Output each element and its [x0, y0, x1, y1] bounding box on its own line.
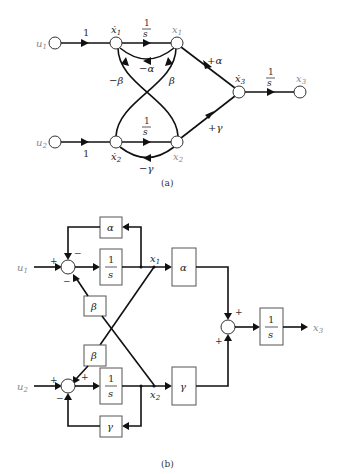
node-u1: [49, 37, 61, 49]
node-x2: [171, 136, 183, 148]
svg-text:s: s: [143, 29, 148, 39]
label-x2: x2: [173, 151, 184, 164]
gain-integrator-2: 1 s: [142, 116, 151, 137]
signal-flow-graph-a: u1 u2 ẋ1 x1 ẋ2 x2 ẋ3 x3 1 1 1 s 1 s 1 s …: [36, 18, 307, 188]
summing-junction-1: [61, 260, 75, 274]
arrow-icon: [73, 274, 80, 282]
arrow-icon: [93, 382, 100, 390]
block-diagram-canvas: u1 u2 ẋ1 x1 ẋ2 x2 ẋ3 x3 1 1 1 s 1 s 1 s …: [0, 0, 338, 474]
summing-junction-2: [61, 379, 75, 393]
gain-integrator-1: 1 s: [142, 18, 151, 39]
svg-text:−: −: [63, 276, 71, 286]
svg-text:s: s: [108, 388, 113, 399]
gain-u1: 1: [83, 27, 89, 38]
arrow-icon: [81, 138, 89, 146]
arrow-icon: [143, 154, 151, 162]
label-b-u2: u2: [17, 381, 28, 394]
label-b-x3: x3: [313, 322, 324, 335]
label-u2: u2: [36, 137, 47, 150]
arrow-icon: [267, 88, 275, 96]
gain-u2: 1: [83, 148, 89, 159]
arrow-icon: [165, 263, 172, 271]
svg-text:α: α: [180, 262, 187, 273]
label-b-u1: u1: [17, 262, 28, 275]
label-b-x2: x2: [150, 389, 161, 402]
gain-minus-beta: −β: [109, 75, 123, 86]
label-x1: x1: [172, 24, 182, 37]
svg-text:+: +: [215, 336, 223, 346]
gain-beta: β: [168, 75, 175, 86]
label-b-x1: x1: [150, 253, 160, 266]
wire-alpha-fb-in: [127, 227, 141, 267]
arrow-icon: [64, 393, 72, 400]
svg-text:+: +: [81, 372, 89, 382]
caption-a: (a): [161, 178, 173, 188]
svg-text:α: α: [107, 222, 114, 233]
label-x2dot: ẋ2: [111, 151, 122, 164]
label-u1: u1: [36, 38, 47, 51]
svg-text:1: 1: [108, 373, 114, 384]
node-x2dot: [110, 136, 122, 148]
svg-text:s: s: [267, 78, 272, 88]
wire-gamma-to-sum3: [196, 338, 228, 386]
node-x1: [171, 37, 183, 49]
branch-feedback-alpha: [120, 48, 174, 59]
svg-text:s: s: [108, 269, 113, 280]
wire-alpha-fb-out: [68, 227, 100, 256]
wire-gamma-fb-in: [127, 386, 141, 426]
svg-text:+: +: [50, 256, 58, 266]
gain-plus-gamma: +γ: [208, 122, 222, 133]
arrow-icon: [253, 323, 260, 331]
arrow-icon: [143, 39, 151, 47]
svg-text:1: 1: [268, 314, 274, 325]
label-x1dot: ẋ1: [111, 24, 121, 37]
gain-integrator-3: 1 s: [266, 67, 275, 88]
svg-text:−: −: [56, 393, 64, 403]
wire-beta-upper-to-sum1: [76, 278, 88, 296]
svg-text:β: β: [90, 350, 97, 361]
arrow-icon: [143, 138, 151, 146]
svg-text:1: 1: [268, 67, 274, 77]
svg-text:1: 1: [144, 18, 150, 28]
summing-junction-3: [221, 320, 235, 334]
arrow-icon: [122, 223, 129, 231]
arrow-icon: [122, 422, 129, 430]
arrow-icon: [301, 323, 308, 331]
node-x1dot: [110, 37, 122, 49]
gain-plus-alpha: +α: [207, 55, 222, 66]
node-x3: [294, 86, 306, 98]
wire-alpha-to-sum3: [196, 267, 228, 316]
arrow-icon: [224, 334, 232, 341]
svg-text:1: 1: [144, 116, 150, 126]
label-x3: x3: [296, 73, 307, 86]
svg-text:γ: γ: [180, 381, 186, 392]
arrow-icon: [64, 253, 72, 260]
svg-text:−: −: [74, 248, 82, 258]
caption-b: (b): [161, 459, 174, 469]
arrow-icon: [93, 263, 100, 271]
svg-text:s: s: [268, 329, 273, 340]
wire-gamma-fb-out: [68, 397, 100, 426]
arrow-icon: [81, 39, 89, 47]
svg-text:γ: γ: [107, 421, 113, 432]
block-diagram-b: u1 1 s x1 α + − − β β: [17, 217, 324, 469]
label-x3dot: ẋ3: [235, 73, 246, 86]
svg-text:+: +: [235, 307, 243, 317]
node-x3dot: [233, 86, 245, 98]
svg-text:+: +: [50, 375, 58, 385]
svg-text:s: s: [143, 127, 148, 137]
arrow-icon: [224, 313, 232, 320]
svg-text:β: β: [90, 301, 97, 312]
arrow-icon: [165, 382, 172, 390]
gain-minus-alpha: −α: [139, 63, 154, 74]
gain-minus-gamma: −γ: [139, 163, 153, 174]
node-u2: [49, 136, 61, 148]
svg-text:1: 1: [108, 254, 114, 265]
branch-feedback-gamma: [120, 147, 174, 158]
